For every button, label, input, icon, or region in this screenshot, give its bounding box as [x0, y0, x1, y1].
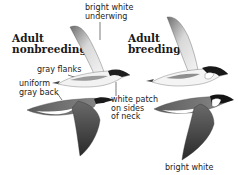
bird-nonbreeding-underside: [52, 26, 130, 87]
bird-nonbreeding-upperside: [27, 97, 114, 156]
bird-breeding-upperside: [154, 95, 234, 160]
bird-illustrations: [0, 0, 238, 175]
bird-breeding-underside: [146, 17, 228, 86]
leader-lines: [57, 22, 116, 100]
